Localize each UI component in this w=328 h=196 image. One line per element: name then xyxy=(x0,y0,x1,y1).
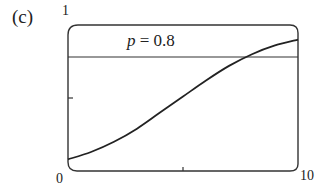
p-symbol: p xyxy=(127,31,136,50)
p-value: = 0.8 xyxy=(136,31,175,50)
data-curve xyxy=(68,40,298,160)
reference-line-label: p = 0.8 xyxy=(127,31,175,51)
chart-canvas xyxy=(0,0,328,196)
plot-frame xyxy=(68,25,298,171)
